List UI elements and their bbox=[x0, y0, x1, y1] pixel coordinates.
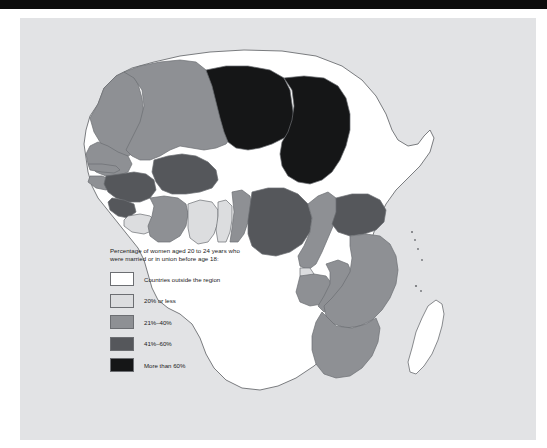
map-legend: Percentage of women aged 20 to 24 years … bbox=[110, 247, 262, 393]
legend-swatch-21-40 bbox=[110, 315, 134, 329]
island-madagascar bbox=[408, 300, 444, 374]
legend-swatch-outside-region bbox=[110, 272, 134, 286]
legend-swatch-more-than-60 bbox=[110, 358, 134, 372]
africa-map bbox=[20, 18, 536, 440]
legend-item-outside-region[interactable]: Countries outside the region bbox=[110, 271, 262, 288]
legend-label-20-or-less: 20% or less bbox=[144, 297, 176, 304]
country-central-african-republic bbox=[332, 194, 386, 236]
island-dot bbox=[420, 290, 422, 292]
africa-map-svg bbox=[20, 18, 536, 440]
island-dot bbox=[415, 285, 417, 287]
legend-title: Percentage of women aged 20 to 24 years … bbox=[110, 247, 244, 264]
top-black-bar bbox=[0, 0, 547, 9]
legend-swatch-41-60 bbox=[110, 337, 134, 351]
map-page: Percentage of women aged 20 to 24 years … bbox=[0, 0, 547, 448]
legend-item-20-or-less[interactable]: 20% or less bbox=[110, 292, 262, 309]
island-dot bbox=[411, 231, 413, 233]
legend-label-more-than-60: More than 60% bbox=[144, 362, 185, 369]
legend-label-41-60: 41%–60% bbox=[144, 340, 172, 347]
legend-item-more-than-60[interactable]: More than 60% bbox=[110, 357, 262, 374]
island-dot bbox=[417, 248, 419, 250]
island-dot bbox=[414, 239, 416, 241]
legend-item-21-40[interactable]: 21%–40% bbox=[110, 314, 262, 331]
legend-item-41-60[interactable]: 41%–60% bbox=[110, 335, 262, 352]
legend-label-21-40: 21%–40% bbox=[144, 319, 172, 326]
legend-label-outside-region: Countries outside the region bbox=[144, 276, 220, 283]
legend-swatch-20-or-less bbox=[110, 294, 134, 308]
island-dot bbox=[421, 259, 423, 261]
